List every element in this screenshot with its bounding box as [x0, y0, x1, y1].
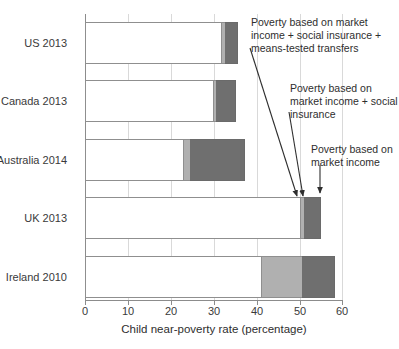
x-tick-label-20: 20: [165, 305, 177, 317]
bar-segment-means-tested-us: [85, 22, 222, 64]
annotation-means-tested: Poverty based on market income + social …: [251, 16, 399, 55]
x-tick-label-30: 30: [208, 305, 220, 317]
category-label-australia-2014: Australia 2014: [0, 154, 67, 166]
annotation-market-income: Poverty based on market income: [311, 143, 399, 169]
bar-segment-means-tested-uk: [85, 197, 301, 239]
category-label-us-2013: US 2013: [0, 37, 67, 49]
x-axis-title: Child near-poverty rate (percentage): [85, 323, 343, 335]
annotation-social-insurance: Poverty based on market income + social …: [290, 82, 399, 121]
bar-row-ireland-2010: Ireland 2010: [0, 256, 399, 298]
bar-segment-means-tested-australia: [85, 139, 184, 181]
x-tick-label-60: 60: [336, 305, 348, 317]
x-tick-label-10: 10: [122, 305, 134, 317]
category-label-uk-2013: UK 2013: [0, 212, 67, 224]
x-tick-label-50: 50: [294, 305, 306, 317]
x-tick-label-40: 40: [251, 305, 263, 317]
bar-row-uk-2013: UK 2013: [0, 197, 399, 239]
category-label-ireland-2010: Ireland 2010: [0, 271, 67, 283]
x-tick-label-0: 0: [82, 305, 88, 317]
category-label-canada-2013: Canada 2013: [0, 95, 67, 107]
bar-segment-means-tested-ireland: [85, 256, 262, 298]
child-near-poverty-chart: US 2013 Canada 2013 Australia 2014 UK 20…: [0, 0, 399, 349]
bar-segment-means-tested-canada: [85, 80, 214, 122]
